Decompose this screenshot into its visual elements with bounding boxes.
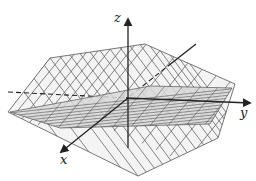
x-axis-label: x — [60, 153, 67, 166]
3d-planes-figure — [0, 0, 256, 181]
z-axis-label: z — [114, 11, 121, 24]
y-axis-label: y — [240, 106, 247, 119]
